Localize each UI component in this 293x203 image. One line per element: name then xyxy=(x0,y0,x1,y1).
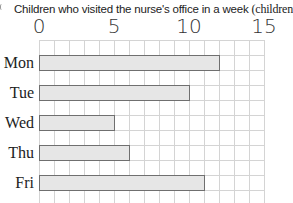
category-label-mon: Mon xyxy=(4,54,34,72)
bar-thu xyxy=(39,145,130,161)
bar-tue xyxy=(39,85,190,101)
grid-hline xyxy=(39,40,264,41)
grid-vline xyxy=(249,40,250,203)
category-label-wed: Wed xyxy=(5,114,34,132)
bar-wed xyxy=(39,115,115,131)
edge-mark xyxy=(0,4,4,10)
category-label-thu: Thu xyxy=(8,144,34,162)
x-tick-label: 10 xyxy=(176,14,201,38)
category-label-tue: Tue xyxy=(10,84,34,102)
bar-fri xyxy=(39,175,205,191)
chart-title-text: Children who visited the nurse's office … xyxy=(14,3,248,15)
x-tick-label: 15 xyxy=(251,14,276,38)
category-label-fri: Fri xyxy=(15,174,34,192)
grid-vline xyxy=(234,40,235,203)
bar-mon xyxy=(39,55,220,71)
x-tick-label: 0 xyxy=(33,14,46,38)
x-tick-label: 5 xyxy=(108,14,121,38)
grid-vline xyxy=(264,40,265,203)
